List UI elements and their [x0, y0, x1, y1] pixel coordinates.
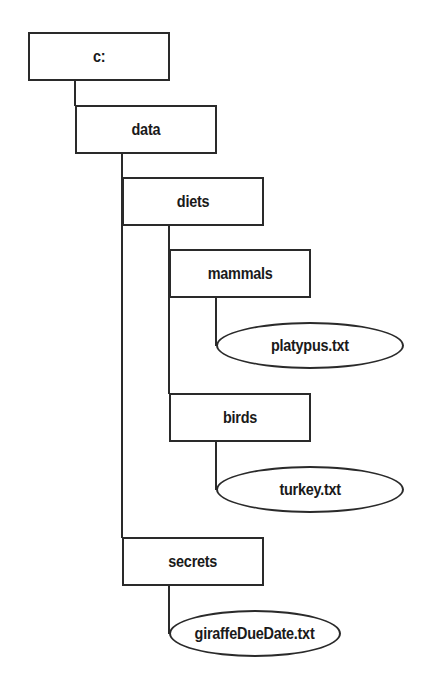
connector-mammals-platypus	[215, 297, 217, 346]
file-node-turkey[interactable]: turkey.txt	[216, 466, 404, 513]
directory-tree-diagram: c: data diets mammals platypus.txt birds…	[0, 0, 425, 686]
folder-label: birds	[223, 408, 257, 428]
file-node-platypus[interactable]: platypus.txt	[216, 322, 404, 369]
folder-node-birds[interactable]: birds	[169, 393, 311, 442]
folder-label: secrets	[169, 552, 218, 572]
folder-label: data	[132, 120, 161, 140]
file-label: turkey.txt	[279, 480, 340, 500]
folder-node-diets[interactable]: diets	[122, 177, 264, 226]
folder-node-data[interactable]: data	[75, 105, 217, 154]
file-node-giraffe[interactable]: giraffeDueDate.txt	[169, 610, 341, 657]
folder-label: c:	[93, 47, 105, 67]
file-label: giraffeDueDate.txt	[195, 624, 315, 644]
file-label: platypus.txt	[271, 336, 349, 356]
folder-label: diets	[177, 192, 209, 212]
folder-label: mammals	[208, 264, 273, 284]
connector-secrets-giraffe	[168, 585, 170, 634]
folder-node-root[interactable]: c:	[28, 32, 170, 81]
folder-node-mammals[interactable]: mammals	[169, 249, 311, 298]
connector-root-data	[74, 80, 76, 106]
connector-birds-turkey	[215, 441, 217, 490]
folder-node-secrets[interactable]: secrets	[122, 537, 264, 586]
